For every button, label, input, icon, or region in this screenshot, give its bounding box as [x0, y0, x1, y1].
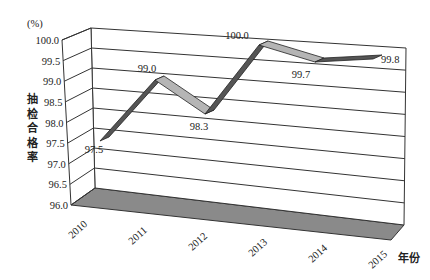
x-tick-label: 2010	[66, 218, 89, 240]
x-tick-label: 2013	[246, 236, 269, 258]
x-tick-label: 2012	[186, 230, 209, 252]
data-label: 99.0	[138, 63, 156, 74]
y-axis-title: 抽检合格率	[27, 92, 39, 164]
y-tick-label: 96.5	[49, 179, 67, 190]
y-tick-label: 97.5	[46, 138, 64, 149]
y-tick-label: 99.0	[43, 76, 61, 87]
y-title-char: 格	[27, 136, 39, 150]
line-chart-3d: 96.096.597.097.598.098.599.099.5100.0 97…	[0, 0, 430, 280]
y-title-char: 检	[27, 107, 38, 121]
y-tick-label: 96.0	[50, 200, 68, 211]
y-title-char: 合	[27, 121, 39, 135]
data-label: 99.7	[292, 69, 310, 80]
y-tick-label: 99.5	[42, 56, 60, 67]
y-tick-label: 97.0	[47, 159, 65, 170]
x-axis-title: 年份	[398, 251, 421, 265]
x-tick-label: 2011	[126, 224, 149, 246]
y-tick-label: 100.0	[35, 35, 59, 46]
data-label: 98.3	[190, 121, 208, 132]
data-label: 97.5	[85, 144, 103, 155]
y-tick-label: 98.0	[45, 118, 63, 129]
data-label: 99.8	[381, 54, 399, 65]
y-unit-label: (%)	[27, 18, 43, 30]
y-tick-label: 98.5	[44, 97, 62, 108]
x-tick-label: 2015	[366, 248, 389, 270]
data-label: 100.0	[225, 30, 249, 41]
y-title-char: 抽	[27, 92, 38, 106]
x-tick-label: 2014	[306, 242, 330, 265]
y-title-char: 率	[27, 150, 38, 164]
